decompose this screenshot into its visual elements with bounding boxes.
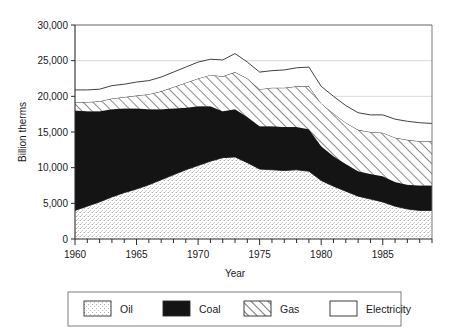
y-tick-label: 20,000 xyxy=(37,91,68,102)
legend-label-gas: Gas xyxy=(280,303,299,315)
y-tick-label: 0 xyxy=(62,234,68,245)
y-tick-label: 15,000 xyxy=(37,127,68,138)
x-tick-label: 1970 xyxy=(187,249,210,260)
x-tick-label: 1985 xyxy=(372,249,395,260)
energy-consumption-chart: 05,00010,00015,00020,00025,00030,000 196… xyxy=(0,0,460,335)
y-tick-label: 10,000 xyxy=(37,162,68,173)
legend-swatch-coal xyxy=(163,301,190,316)
y-tick-label: 5,000 xyxy=(43,198,68,209)
x-tick-label: 1980 xyxy=(310,249,333,260)
x-tick-label: 1965 xyxy=(125,249,148,260)
y-tick-label: 25,000 xyxy=(37,55,68,66)
y-tick-label: 30,000 xyxy=(37,20,68,31)
legend-label-oil: Oil xyxy=(120,303,133,315)
y-axis-title: Billion therms xyxy=(17,102,28,162)
legend-item-electricity[interactable]: Electricity xyxy=(330,301,412,316)
legend-swatch-electricity xyxy=(330,301,357,316)
x-tick-label: 1960 xyxy=(64,249,87,260)
chart-canvas: 05,00010,00015,00020,00025,00030,000 196… xyxy=(0,0,460,335)
legend-label-coal: Coal xyxy=(199,303,221,315)
legend-item-oil[interactable]: Oil xyxy=(84,301,133,316)
legend-label-electricity: Electricity xyxy=(366,303,412,315)
legend-swatch-gas xyxy=(244,301,271,316)
legend-swatch-oil xyxy=(84,301,111,316)
x-axis-title: Year xyxy=(225,268,246,279)
chart-legend: OilCoalGasElectricity xyxy=(68,292,412,326)
x-tick-label: 1975 xyxy=(249,249,272,260)
